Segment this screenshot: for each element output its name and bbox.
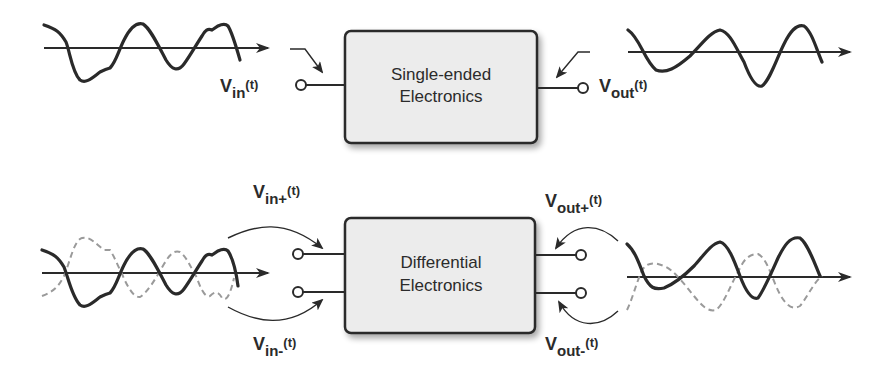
output-terminal-icon <box>578 83 588 93</box>
differential-output-waveform <box>627 238 850 311</box>
differential-block-label-line2: Electronics <box>399 276 482 295</box>
clean-output-signal <box>628 26 822 87</box>
input-plus-pointer-arrow <box>228 227 322 248</box>
input-pointer-arrow <box>290 49 322 72</box>
noisy-input-signal <box>44 24 240 82</box>
output-minus-terminal-icon <box>576 288 586 298</box>
vout-label: Vout(t) <box>599 76 647 101</box>
input-terminal-icon <box>296 80 306 90</box>
vin-minus-label: Vin-(t) <box>253 334 296 359</box>
single-ended-output-waveform <box>628 26 850 87</box>
output-plus-pointer-arrow <box>556 228 618 248</box>
vout-plus-label: Vout+(t) <box>545 191 602 216</box>
single-ended-block-label-line1: Single-ended <box>391 65 491 84</box>
output-minus-pointer-arrow <box>559 302 618 323</box>
input-plus-terminal-icon <box>293 249 303 259</box>
differential-input-waveform <box>42 238 268 307</box>
input-minus-pointer-arrow <box>228 300 322 320</box>
single-ended-section: Vin(t) Single-ended Electronics Vout(t) <box>44 24 850 143</box>
vin-plus-label: Vin+(t) <box>253 182 300 207</box>
clean-output-signal <box>627 238 820 299</box>
output-pointer-arrow <box>557 52 590 77</box>
inverted-output-signal-dashed <box>627 254 822 310</box>
vout-minus-label: Vout-(t) <box>545 334 598 359</box>
output-plus-terminal-icon <box>576 250 586 260</box>
diagram-canvas: Vin(t) Single-ended Electronics Vout(t) <box>0 0 890 381</box>
single-ended-input-waveform <box>44 24 268 82</box>
single-ended-block-label-line2: Electronics <box>399 87 482 106</box>
vin-label: Vin(t) <box>220 76 258 101</box>
differential-section: Vin+(t) Vin-(t) Differential Electronics… <box>42 182 850 359</box>
input-minus-terminal-icon <box>293 287 303 297</box>
differential-block-label-line1: Differential <box>401 253 482 272</box>
